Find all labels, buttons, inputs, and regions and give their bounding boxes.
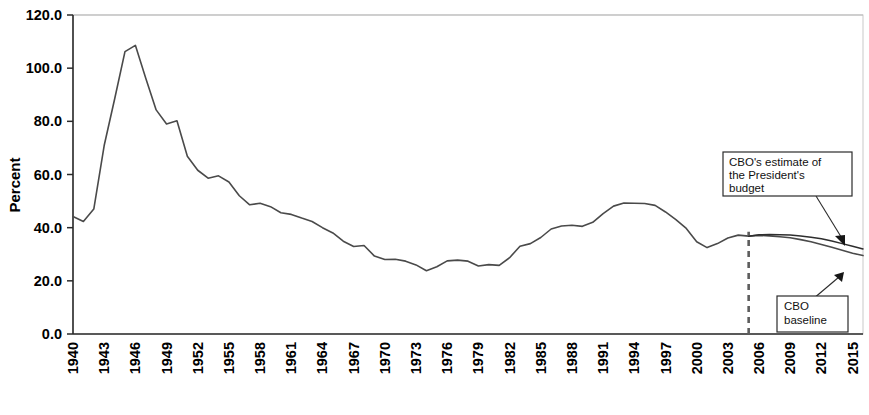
x-axis-tick-label: 1955 [221, 342, 237, 374]
x-axis-tick-label: 2006 [751, 342, 767, 374]
x-axis-tick-label: 1946 [127, 342, 143, 374]
y-axis-tick-label: 100.0 [26, 60, 62, 76]
x-axis-tick-label: 1991 [595, 342, 611, 374]
x-axis-tick-label: 2003 [720, 342, 736, 374]
x-axis-tick-label: 1958 [252, 342, 268, 374]
x-axis-tick-label: 1940 [65, 342, 81, 374]
x-axis-tick-label: 1967 [346, 342, 362, 374]
x-axis-tick-label: 1976 [439, 342, 455, 374]
x-axis-tick-label: 1973 [408, 342, 424, 374]
x-axis-tick-label: 1997 [658, 342, 674, 374]
x-axis-tick-label: 1952 [190, 342, 206, 374]
x-axis-tick-label: 1982 [502, 342, 518, 374]
y-axis-tick-label: 60.0 [34, 167, 62, 183]
x-axis-tick-label: 1964 [314, 342, 330, 374]
y-axis-title: Percent [6, 157, 23, 212]
x-axis-tick-label: 1961 [283, 342, 299, 374]
chart-figure: Percent 0.020.040.060.080.0100.0120.0 19… [0, 0, 869, 415]
x-axis-tick-label: 1949 [159, 342, 175, 374]
x-axis-tick-label: 2015 [845, 342, 861, 374]
x-axis-tick-label: 1979 [470, 342, 486, 374]
x-axis-tick-label: 1985 [533, 342, 549, 374]
x-axis-tick-label: 1943 [96, 342, 112, 374]
annotation-line-1-cbo-baseline: CBO [784, 300, 809, 312]
annotation-line-3-presidents-budget: budget [729, 182, 765, 194]
x-axis-tick-label: 2000 [689, 342, 705, 374]
annotation-line-2-presidents-budget: the President's [729, 169, 805, 181]
x-axis-tick-label: 1970 [377, 342, 393, 374]
x-axis-tick-label: 1988 [564, 342, 580, 374]
y-axis-tick-label: 40.0 [34, 220, 62, 236]
annotation-line-1-presidents-budget: CBO's estimate of [729, 156, 822, 168]
debt-held-by-public-line-chart: Percent 0.020.040.060.080.0100.0120.0 19… [0, 0, 869, 415]
x-axis-tick-label: 2009 [782, 342, 798, 374]
x-axis-tick-label: 1994 [626, 342, 642, 374]
x-axis-tick-label: 2012 [813, 342, 829, 374]
annotation-line-2-cbo-baseline: baseline [784, 314, 827, 326]
y-axis-tick-label: 120.0 [26, 7, 62, 23]
y-axis-tick-label: 80.0 [34, 113, 62, 129]
y-axis-tick-label: 0.0 [42, 326, 62, 342]
y-axis-tick-label: 20.0 [34, 273, 62, 289]
